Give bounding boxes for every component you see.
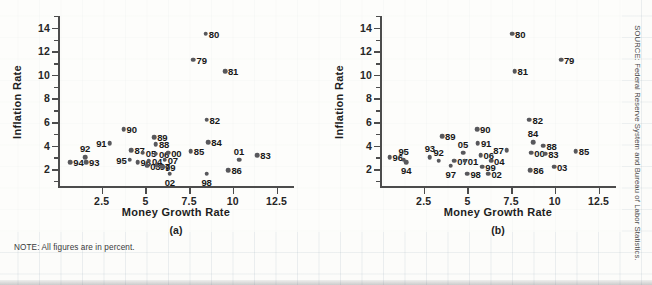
- data-point-label: 97: [446, 169, 456, 180]
- data-point: [428, 155, 433, 160]
- y-tick-label: 10: [38, 69, 50, 81]
- data-point: [206, 140, 211, 145]
- data-point: [83, 155, 88, 160]
- y-tick-minor: [376, 40, 380, 41]
- y-tick-major: [374, 28, 380, 30]
- y-tick-minor: [376, 63, 380, 64]
- data-point: [541, 143, 546, 148]
- data-point: [573, 149, 578, 154]
- data-point: [154, 163, 159, 168]
- data-point-label: 82: [210, 114, 220, 125]
- data-point: [223, 69, 228, 74]
- data-point: [449, 163, 454, 168]
- panel-a-plot-area: 24681012142.557.51012.594939291909587960…: [58, 16, 294, 188]
- data-point-label: 02: [491, 168, 501, 179]
- data-point-label: 04: [494, 155, 504, 166]
- x-tick-major: [467, 188, 469, 194]
- data-point: [528, 168, 533, 173]
- y-tick-major: [52, 169, 58, 171]
- panel-a: Inflation Rate 24681012142.557.51012.594…: [0, 0, 326, 232]
- data-point: [152, 135, 157, 140]
- y-tick-label: 8: [366, 92, 372, 104]
- panel-b-plot-area: 24681012142.557.51012.596959493928997070…: [380, 16, 616, 188]
- y-tick-major: [374, 122, 380, 124]
- data-point: [160, 164, 165, 169]
- data-point: [107, 141, 112, 146]
- data-point: [121, 127, 126, 132]
- data-point-label: 03: [557, 161, 567, 172]
- data-point: [129, 148, 134, 153]
- data-point: [203, 31, 208, 36]
- data-point-label: 86: [533, 165, 543, 176]
- x-tick-major: [424, 188, 426, 194]
- data-point: [531, 140, 536, 145]
- data-point: [162, 157, 167, 162]
- data-point: [486, 172, 491, 177]
- data-point-label: 87: [493, 145, 503, 156]
- data-point: [204, 172, 209, 177]
- data-point: [226, 168, 231, 173]
- data-point-label: 95: [398, 146, 408, 157]
- data-point: [462, 159, 467, 164]
- y-tick-minor: [54, 134, 58, 135]
- data-point: [504, 148, 509, 153]
- panel-a-x-axis-title: Money Growth Rate: [58, 206, 294, 218]
- y-tick-major: [374, 169, 380, 171]
- y-tick-label: 2: [44, 163, 50, 175]
- data-point: [489, 159, 494, 164]
- y-tick-label: 12: [38, 45, 50, 57]
- panel-b-caption: (b): [380, 224, 616, 236]
- data-point-label: 79: [564, 54, 574, 65]
- y-tick-label: 6: [366, 116, 372, 128]
- panel-a-y-axis-title: Inflation Rate: [10, 16, 24, 188]
- y-tick-minor: [376, 16, 380, 17]
- data-point-label: 80: [515, 28, 525, 39]
- y-tick-minor: [54, 157, 58, 158]
- data-point-label: 92: [433, 147, 443, 158]
- y-tick-major: [374, 75, 380, 77]
- data-point: [436, 159, 441, 164]
- y-tick-major: [52, 122, 58, 124]
- data-point: [135, 160, 140, 165]
- data-point: [527, 117, 532, 122]
- x-tick-major: [102, 188, 104, 194]
- data-point-label: 05: [458, 139, 468, 150]
- data-point: [140, 150, 145, 155]
- data-point-label: 81: [518, 66, 528, 77]
- data-point-label: 98: [201, 177, 211, 188]
- data-point-label: 81: [228, 66, 238, 77]
- data-point-label: 01: [234, 146, 244, 157]
- y-tick-minor: [54, 63, 58, 64]
- data-point-label: 90: [480, 124, 490, 135]
- y-tick-label: 12: [360, 45, 372, 57]
- y-tick-label: 14: [360, 22, 372, 34]
- data-point: [440, 134, 445, 139]
- data-point: [543, 152, 548, 157]
- data-point-label: 82: [532, 114, 542, 125]
- data-point-label: 79: [196, 54, 206, 65]
- data-point-label: 83: [548, 148, 558, 159]
- data-point-label: 90: [127, 124, 137, 135]
- figure-source: SOURCE: Federal Reserve System and Burea…: [633, 25, 642, 261]
- y-tick-major: [374, 98, 380, 100]
- data-point-label: 80: [209, 28, 219, 39]
- data-point-label: 91: [481, 138, 491, 149]
- page-bottom-edge: [0, 280, 652, 285]
- y-tick-minor: [54, 40, 58, 41]
- data-point: [461, 150, 466, 155]
- x-tick-major: [599, 188, 601, 194]
- data-point-label: 94: [401, 165, 411, 176]
- data-point-label: 95: [116, 154, 126, 165]
- data-point: [204, 117, 209, 122]
- data-point: [145, 163, 150, 168]
- panel-b: Inflation Rate 24681012142.557.51012.596…: [322, 0, 648, 232]
- data-point-label: 85: [579, 146, 589, 157]
- data-point-label: 86: [231, 165, 241, 176]
- y-tick-minor: [376, 110, 380, 111]
- data-point-label: 85: [194, 146, 204, 157]
- y-tick-major: [52, 146, 58, 148]
- data-point: [237, 157, 242, 162]
- data-point: [166, 150, 171, 155]
- y-tick-label: 10: [360, 69, 372, 81]
- data-point: [478, 153, 483, 158]
